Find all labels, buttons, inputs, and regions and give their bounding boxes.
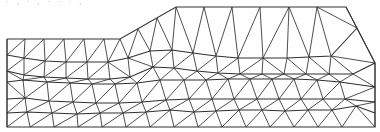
mesh-edge [77, 114, 78, 127]
mesh-edge [294, 79, 301, 99]
mesh-edge [240, 74, 250, 79]
mesh-edge [234, 99, 239, 110]
mesh-edge [197, 71, 206, 80]
mesh-edge [212, 79, 228, 99]
mesh-edge [272, 79, 279, 99]
mesh-edge [49, 83, 70, 101]
mesh-edge [49, 101, 52, 113]
mesh-edge [137, 67, 153, 83]
mesh-edge [7, 112, 27, 127]
mesh-edge [285, 99, 301, 111]
mesh-edge [96, 84, 115, 103]
mesh-edge [25, 98, 27, 112]
mesh-edge [285, 111, 294, 127]
mesh-edge [7, 82, 25, 98]
mesh-edge [128, 58, 130, 77]
mesh-edge [317, 7, 331, 56]
mesh-edge [198, 111, 216, 127]
mesh-edge [52, 113, 54, 127]
mesh-edge [301, 80, 317, 99]
mesh-edge [284, 74, 294, 79]
mesh-edge [137, 83, 142, 102]
mesh-edge [44, 61, 45, 77]
mesh-edge [239, 99, 257, 110]
cropped-footer-text: · · [178, 124, 193, 131]
mesh-edge [234, 79, 250, 99]
mesh-edge [87, 62, 88, 79]
mesh-edge [130, 77, 137, 83]
mesh-edge [318, 110, 332, 127]
mesh-edge [7, 98, 25, 113]
mesh-edge [123, 102, 142, 113]
mesh-edge [119, 83, 137, 103]
mesh-edge [146, 112, 150, 127]
mesh-edge [23, 77, 44, 80]
mesh-edge [176, 7, 193, 53]
mesh-edge [228, 74, 240, 79]
mesh-edge [250, 74, 262, 79]
mesh-edge [73, 102, 77, 114]
mesh-edge [301, 99, 308, 110]
mesh-row-line [7, 63, 375, 79]
mesh-edge [24, 39, 25, 58]
mesh-edge [294, 110, 308, 127]
mesh-edge [172, 50, 174, 68]
mesh-edge [108, 62, 130, 77]
mesh-edge [284, 58, 287, 74]
mesh-edge [166, 80, 184, 100]
mesh-edge [70, 79, 88, 83]
mesh-edge [126, 112, 146, 127]
mesh-edge [239, 110, 246, 127]
mesh-edge [120, 39, 128, 58]
mesh-edge [317, 80, 323, 99]
mesh-edge [308, 110, 318, 127]
mesh-row-line [7, 98, 375, 103]
mesh-edge [128, 58, 153, 67]
mesh-edge [289, 7, 309, 57]
mesh-edge [323, 82, 340, 99]
mesh-edge [345, 87, 375, 99]
mesh-edge [7, 58, 24, 71]
mesh-edge [340, 74, 353, 82]
mesh-edge [142, 102, 146, 112]
mesh-edge [52, 102, 73, 113]
mesh-edge [170, 99, 189, 110]
mesh-edge [257, 99, 262, 110]
mesh-edge [294, 74, 306, 79]
mesh-edge [104, 39, 108, 62]
mesh-edge [206, 73, 218, 80]
mesh-edge [218, 58, 238, 73]
mesh-edge [306, 57, 309, 74]
mesh-edge [73, 84, 92, 102]
mesh-edge [84, 39, 87, 62]
mesh-edge [263, 58, 284, 74]
mesh-edge [102, 113, 123, 127]
mesh-edge [78, 113, 100, 127]
mesh-edge [189, 80, 206, 99]
mesh-edge [153, 50, 172, 67]
mesh-edge [88, 62, 108, 79]
mesh-edge [23, 75, 24, 80]
mesh-edge [160, 80, 166, 100]
mesh-edge [332, 110, 342, 127]
mesh-edge [24, 39, 44, 58]
mesh-edge [340, 82, 345, 99]
mesh-edge [250, 79, 257, 99]
mesh-edge [212, 99, 216, 111]
mesh-edge [142, 80, 160, 102]
mesh-edge [54, 114, 77, 127]
mesh-outer-boundary [7, 7, 375, 127]
mesh-edge [197, 56, 216, 71]
mesh-edge [100, 113, 102, 127]
mesh-row-line [7, 79, 375, 87]
mesh-edge [216, 7, 232, 56]
mesh-edge [119, 103, 123, 113]
mesh-edge [108, 39, 120, 62]
mesh-edge [166, 100, 170, 110]
mesh-edge [174, 53, 193, 68]
mesh-edge [64, 39, 66, 62]
mesh-edge [174, 68, 184, 80]
mesh-edge [323, 99, 332, 110]
mesh-edge [153, 67, 160, 80]
mesh-edge [96, 103, 100, 113]
